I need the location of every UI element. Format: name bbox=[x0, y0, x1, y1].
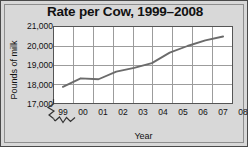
x-tick-label-07: 07 bbox=[218, 107, 227, 117]
y-tick-label-19000: 19,000 bbox=[27, 60, 53, 70]
x-tick-label-06: 06 bbox=[198, 107, 207, 117]
y-tick-label-21000: 21,000 bbox=[27, 21, 53, 31]
x-tick-label-08: 08 bbox=[238, 107, 247, 117]
y-tick-label-20000: 20,000 bbox=[27, 41, 53, 51]
x-tick-label-99: 99 bbox=[58, 107, 67, 117]
plot-area bbox=[53, 26, 233, 104]
x-tick-label-03: 03 bbox=[138, 107, 147, 117]
x-tick-label-01: 01 bbox=[98, 107, 107, 117]
x-tick-label-02: 02 bbox=[118, 107, 127, 117]
x-tick-label-05: 05 bbox=[178, 107, 187, 117]
y-tick-label-18000: 18,000 bbox=[27, 80, 53, 90]
y-axis-title: Pounds of milk bbox=[9, 31, 19, 109]
x-tick-label-04: 04 bbox=[158, 107, 167, 117]
x-tick-label-00: 00 bbox=[78, 107, 87, 117]
chart-figure: Rate per Cow, 1999–2008 17,000 18,000 19… bbox=[0, 0, 248, 147]
x-axis-title: Year bbox=[53, 131, 234, 141]
x-axis-tick-labels: 99 00 01 02 03 04 05 06 07 08 bbox=[53, 107, 234, 119]
data-series-line bbox=[54, 27, 232, 103]
